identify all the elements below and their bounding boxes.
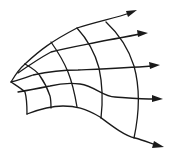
streamline-4 — [18, 83, 155, 99]
arrowhead-1 — [126, 10, 137, 17]
arrowhead-4 — [152, 95, 163, 102]
arc-1 — [11, 64, 27, 114]
arrowhead-3 — [149, 62, 160, 69]
arc-lines — [11, 22, 138, 138]
arrowhead-2 — [137, 30, 148, 37]
arc-3 — [51, 42, 77, 107]
streamlines — [11, 10, 164, 148]
arrowhead-5 — [152, 141, 164, 148]
flow-net-diagram — [0, 0, 174, 156]
